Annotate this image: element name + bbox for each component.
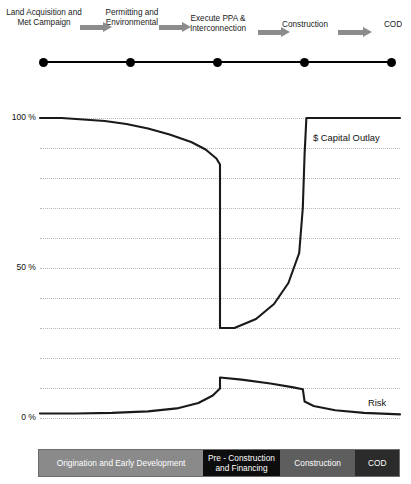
- risk-series-label: Risk: [368, 397, 386, 408]
- timeline-stage-label: Land Acquisition and Met Campaign: [6, 8, 82, 27]
- timeline-node-0[interactable]: [39, 58, 48, 67]
- capital-outlay-line: [40, 118, 400, 328]
- series-label-text: Risk: [368, 397, 386, 408]
- phase-segment-pre-construction[interactable]: Pre - Construction and Financing: [203, 450, 280, 476]
- risk-capital-outlay-chart: 100 %50 %0 % $ Capital Outlay Risk: [0, 100, 411, 440]
- timeline-arrow-icon-1: [159, 22, 191, 33]
- phase-segment-label: Pre - Construction and Financing: [205, 453, 278, 473]
- project-timeline: Land Acquisition and Met Campaign Permit…: [0, 0, 411, 80]
- timeline-node-1[interactable]: [126, 58, 135, 67]
- risk-line: [40, 378, 400, 415]
- phase-segment-label: Construction: [294, 458, 341, 468]
- timeline-stage-0[interactable]: Land Acquisition and Met Campaign: [4, 8, 84, 28]
- phase-segment-origination[interactable]: Origination and Early Development: [39, 450, 203, 476]
- phase-segment-label: Origination and Early Development: [57, 458, 186, 468]
- timeline-stage-label: Permitting and Environmental: [106, 8, 159, 27]
- timeline-stage-label: COD: [384, 20, 402, 29]
- timeline-stage-label: Execute PPA & Interconnection: [190, 14, 246, 33]
- project-phase-bar: Origination and Early Development Pre - …: [38, 449, 400, 477]
- timeline-arrow-icon-2: [258, 27, 290, 38]
- chart-plot-area: [0, 100, 411, 440]
- timeline-arrow-icon-3: [338, 27, 372, 38]
- timeline-node-4[interactable]: [387, 58, 396, 67]
- phase-segment-cod[interactable]: COD: [355, 450, 399, 476]
- series-label-text: $ Capital Outlay: [313, 132, 380, 143]
- phase-segment-label: COD: [368, 458, 386, 468]
- capital-outlay-series-label: $ Capital Outlay: [313, 132, 380, 143]
- timeline-arrow-icon-0: [80, 22, 112, 33]
- timeline-node-2[interactable]: [213, 58, 222, 67]
- timeline-node-3[interactable]: [300, 58, 309, 67]
- phase-segment-construction[interactable]: Construction: [280, 450, 356, 476]
- timeline-stage-4[interactable]: COD: [378, 20, 408, 30]
